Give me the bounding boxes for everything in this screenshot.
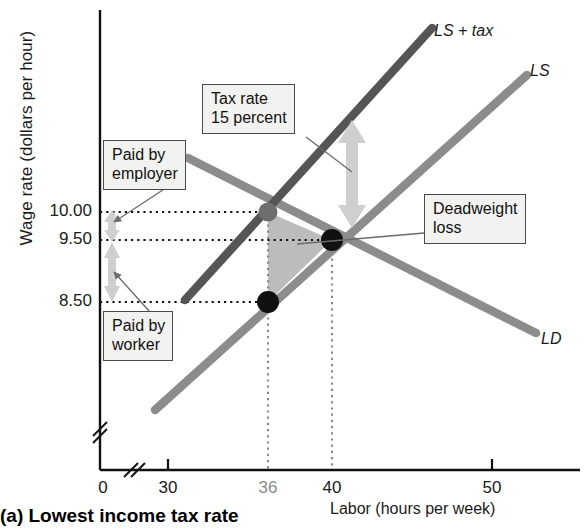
curve-label-ls-plus-tax: LS + tax (434, 22, 493, 40)
tax-wedge-arrow-icon (338, 120, 366, 228)
figure-caption: (a) Lowest income tax rate (0, 505, 239, 527)
callout-deadweight-loss: Deadweight loss (424, 194, 526, 244)
curve-label-ls: LS (530, 62, 550, 80)
x-axis-title: Labor (hours per week) (330, 500, 495, 518)
paid-by-employer-arrow-icon (104, 210, 120, 242)
y-tick-9-50: 9.50 (18, 229, 92, 249)
callout-paid-by-worker-line1: Paid by (112, 317, 165, 336)
x-tick-50: 50 (462, 478, 522, 498)
callout-deadweight-loss-line1: Deadweight (433, 200, 518, 219)
x-axis-ticks (168, 459, 492, 470)
callout-tax-rate: Tax rate 15 percent (202, 84, 295, 134)
economics-figure: Wage rate (dollars per hour) 10.00 9.50 … (0, 0, 584, 530)
x-tick-36: 36 (238, 478, 298, 498)
callout-paid-by-employer: Paid by employer (103, 140, 186, 190)
callout-tax-rate-line2: 15 percent (211, 109, 287, 128)
x-tick-30: 30 (138, 478, 198, 498)
callout-paid-by-employer-line2: employer (112, 165, 178, 184)
x-tick-40: 40 (302, 478, 362, 498)
y-tick-10: 10.00 (18, 201, 92, 221)
point-after-tax-equilibrium (259, 203, 278, 222)
x-origin-label: 0 (73, 478, 133, 498)
paid-by-worker-arrow-icon (104, 242, 120, 302)
leader-line-paid-by-worker (114, 272, 150, 312)
callout-paid-by-worker: Paid by worker (103, 311, 173, 361)
curve-label-ld: LD (541, 330, 561, 348)
callout-deadweight-loss-line2: loss (433, 219, 518, 238)
y-tick-8-50: 8.50 (18, 291, 92, 311)
point-worker-net-wage (257, 291, 279, 313)
y-axis-title: Wage rate (dollars per hour) (17, 13, 37, 263)
callout-paid-by-worker-line2: worker (112, 336, 165, 355)
callout-paid-by-employer-line1: Paid by (112, 146, 178, 165)
chart-canvas (0, 0, 584, 530)
callout-tax-rate-line1: Tax rate (211, 90, 287, 109)
